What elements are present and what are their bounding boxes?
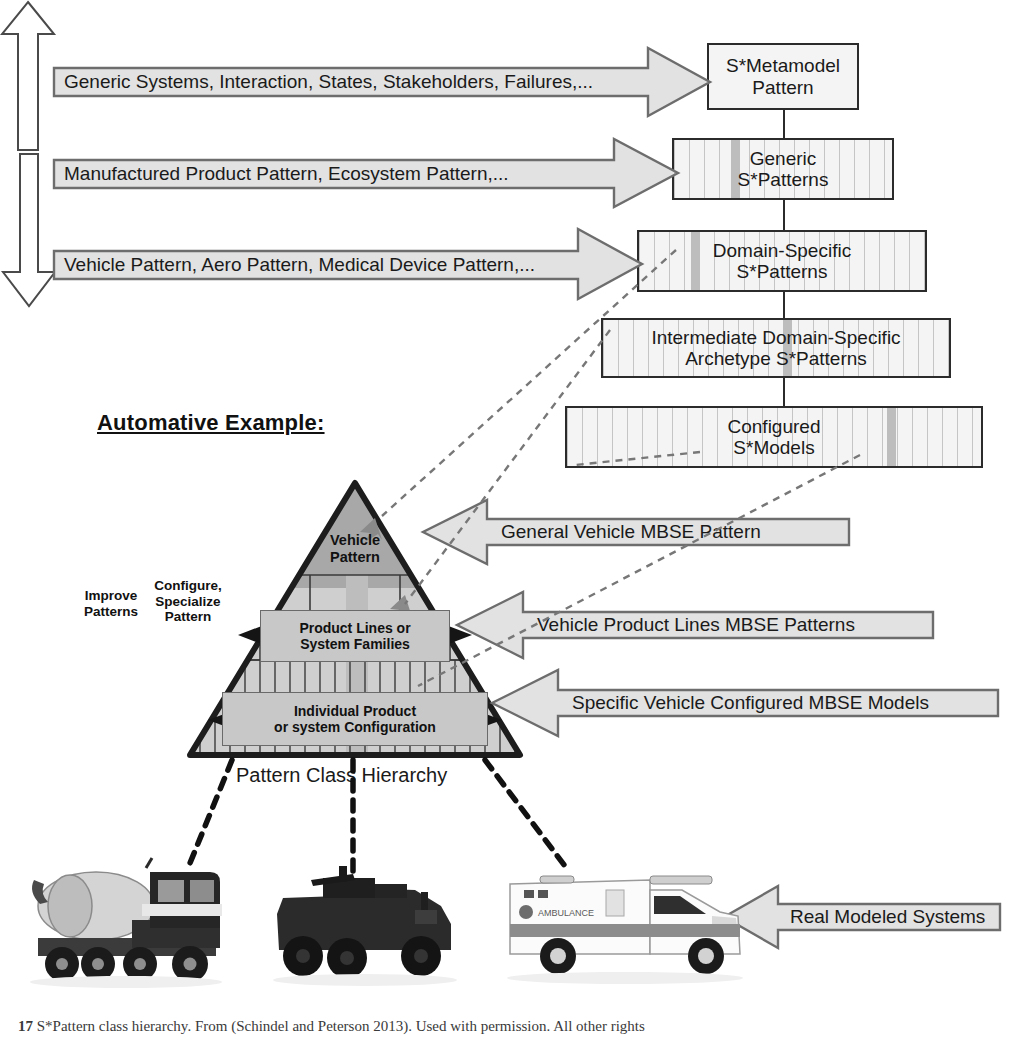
- node-metamodel-pattern[interactable]: S*Metamodel Pattern: [707, 43, 859, 110]
- pattern-class-hierarchy-label: Pattern Class Hierarchy: [236, 764, 447, 787]
- figure-caption-text: S*Pattern class hierarchy. From (Schinde…: [37, 1018, 645, 1034]
- arrow-domain[interactable]: Vehicle Pattern, Aero Pattern, Medical D…: [52, 226, 644, 302]
- node-domain-specific-label: Domain-Specific S*Patterns: [713, 240, 851, 283]
- arrow-real-systems-label: Real Modeled Systems: [790, 904, 985, 930]
- arrow-general-vehicle[interactable]: General Vehicle MBSE Pattern: [421, 497, 851, 567]
- node-configured-stripe: [887, 408, 896, 466]
- arrow-product-lines[interactable]: Vehicle Product Lines MBSE Patterns: [455, 589, 935, 661]
- pyramid-base-box[interactable]: Individual Product or system Configurati…: [222, 692, 488, 746]
- ambulance-body-text: AMBULANCE: [538, 908, 594, 918]
- pyramid-apex-label: Vehicle Pattern: [305, 532, 405, 565]
- connector-generic-domain: [783, 200, 785, 230]
- figure-canvas: S*Metamodel Pattern Generic S*Patterns D…: [0, 0, 1023, 1040]
- node-intermediate-archetype[interactable]: Intermediate Domain-Specific Archetype S…: [601, 318, 951, 378]
- arrow-product-lines-label: Vehicle Product Lines MBSE Patterns: [537, 612, 855, 638]
- arrow-domain-label: Vehicle Pattern, Aero Pattern, Medical D…: [64, 251, 535, 279]
- vehicle-cement-mixer-truck: [24, 848, 234, 988]
- vehicle-ambulance: AMBULANCE: [500, 850, 750, 990]
- node-generic-spatterns[interactable]: Generic S*Patterns: [672, 138, 894, 200]
- node-domain-stripe: [691, 232, 700, 290]
- arrow-general-vehicle-label: General Vehicle MBSE Pattern: [501, 519, 761, 545]
- node-configured-smodels-label: Configured S*Models: [728, 416, 821, 459]
- pyramid-middle-label: Product Lines or System Families: [299, 620, 410, 652]
- page-title: Automative Example:: [97, 410, 325, 436]
- improve-patterns-label: Improve Patterns: [74, 588, 148, 619]
- connector-domain-intermediate: [783, 292, 785, 318]
- arrow-metamodel[interactable]: Generic Systems, Interaction, States, St…: [52, 46, 712, 118]
- arrow-specific-vehicle[interactable]: Specific Vehicle Configured MBSE Models: [490, 667, 1000, 739]
- node-generic-spatterns-label: Generic S*Patterns: [738, 148, 829, 191]
- arrow-generic-label: Manufactured Product Pattern, Ecosystem …: [64, 160, 509, 188]
- figure-caption-number: 17: [18, 1018, 33, 1034]
- vehicle-armored-military: [265, 858, 465, 988]
- node-configured-smodels[interactable]: Configured S*Models: [565, 406, 983, 468]
- figure-caption: 17 S*Pattern class hierarchy. From (Schi…: [18, 1018, 1018, 1035]
- arrow-generic[interactable]: Manufactured Product Pattern, Ecosystem …: [52, 136, 680, 210]
- node-metamodel-pattern-label: S*Metamodel Pattern: [726, 55, 840, 98]
- pyramid-base-label: Individual Product or system Configurati…: [274, 703, 436, 735]
- arrow-real-systems[interactable]: Real Modeled Systems: [722, 884, 1002, 950]
- connector-intermediate-configured: [783, 378, 785, 406]
- node-domain-specific-spatterns[interactable]: Domain-Specific S*Patterns: [637, 230, 927, 292]
- node-intermediate-archetype-label: Intermediate Domain-Specific Archetype S…: [651, 327, 900, 370]
- arrow-specific-vehicle-label: Specific Vehicle Configured MBSE Models: [572, 690, 929, 716]
- connector-metamodel-generic: [783, 110, 785, 138]
- arrow-metamodel-label: Generic Systems, Interaction, States, St…: [64, 68, 593, 96]
- pyramid-middle-box[interactable]: Product Lines or System Families: [260, 610, 450, 662]
